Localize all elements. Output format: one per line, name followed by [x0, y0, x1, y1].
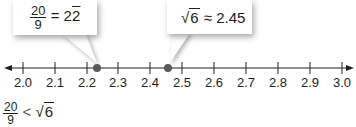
approx-sign: ≈: [204, 9, 212, 26]
callout-20-over-9: 20 9 = 2.2: [13, 0, 97, 35]
radicand: 6: [189, 8, 199, 26]
right-arrow-icon: [346, 65, 354, 71]
radicand: 6: [44, 102, 54, 120]
square-root: √6: [35, 103, 54, 120]
tick-label: 2.8: [263, 75, 293, 90]
tick-label: 2.4: [135, 75, 165, 90]
point-20-over-9: [93, 64, 101, 72]
denominator: 9: [3, 114, 18, 126]
tick-label: 2.2: [72, 75, 102, 90]
fraction: 20 9: [3, 101, 18, 126]
callout-1-tail: [62, 34, 97, 63]
numerator: 20: [30, 4, 46, 18]
comparison-statement: 20 9 < √6: [3, 101, 54, 126]
radical-sign-icon: √: [181, 9, 189, 26]
callout-2-expression: √6 ≈ 2.45: [181, 9, 245, 26]
fraction: 20 9: [30, 4, 46, 31]
tick-label: 2.6: [199, 75, 229, 90]
tick-label: 2.0: [8, 75, 38, 90]
denominator: 9: [30, 18, 46, 31]
point-sqrt-6: [164, 64, 172, 72]
callout-sqrt-6: √6 ≈ 2.45: [167, 0, 252, 34]
radical-sign-icon: √: [35, 103, 43, 120]
approx-value: 2.45: [216, 9, 245, 26]
square-root: √6: [181, 9, 200, 26]
left-arrow-icon: [4, 65, 12, 71]
repeating-digit: 2: [72, 7, 80, 24]
tick-label: 2.3: [103, 75, 133, 90]
callout-1-expression: 20 9 = 2.2: [30, 4, 80, 31]
tick-label: 3.0: [327, 75, 356, 90]
tick-label: 2.9: [295, 75, 325, 90]
callout-2-tail: [170, 33, 190, 63]
tick-label: 2.1: [40, 75, 70, 90]
tick-label: 2.5: [167, 75, 197, 90]
tick-label: 2.7: [231, 75, 261, 90]
less-than-sign: <: [23, 103, 32, 120]
equals-sign: =: [51, 7, 60, 24]
